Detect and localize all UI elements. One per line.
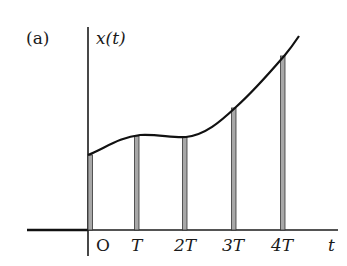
sample-bar-3T <box>232 108 237 230</box>
sampled-signal-diagram: (a) x(t) O T 2T 3T 4T t <box>0 0 347 266</box>
tick-label-3T: 3T <box>222 235 246 255</box>
sample-bars <box>88 56 285 230</box>
x-axis-label: t <box>328 235 335 255</box>
sample-bar-2T <box>183 137 188 230</box>
sample-bar-T <box>135 136 140 230</box>
sample-bar-0 <box>88 155 93 230</box>
signal-curve <box>88 36 299 155</box>
sample-bar-4T <box>281 56 286 230</box>
tick-label-T: T <box>131 235 144 255</box>
panel-label: (a) <box>26 28 49 48</box>
tick-label-2T: 2T <box>173 235 198 255</box>
tick-label-4T: 4T <box>270 235 295 255</box>
tick-label-O: O <box>96 235 110 255</box>
y-axis-label: x(t) <box>96 28 126 48</box>
